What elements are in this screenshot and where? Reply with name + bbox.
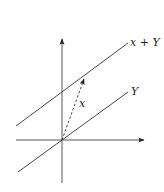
label-Y: Y <box>131 86 138 97</box>
label-x: x <box>79 98 85 109</box>
diagram-canvas: x + Y Y x <box>0 0 164 192</box>
label-x-plus-Y: x + Y <box>130 37 160 48</box>
line-Y <box>18 92 128 172</box>
diagram-svg <box>0 0 164 192</box>
